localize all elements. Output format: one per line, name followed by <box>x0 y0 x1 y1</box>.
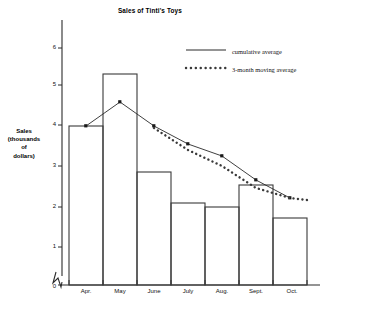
bar-aug <box>205 207 239 285</box>
y-tick-marks <box>58 48 62 285</box>
bar-may <box>103 74 137 285</box>
bar-july <box>171 203 205 285</box>
bar-apr <box>69 126 103 285</box>
axis-lines <box>62 20 320 285</box>
moving-average-line <box>154 128 307 200</box>
bar-oct <box>273 218 307 285</box>
bar-june <box>137 172 171 285</box>
x-tick-marks <box>69 280 307 285</box>
chart-figure: Sales of Tinti's Toys Sales (thousands o… <box>0 0 377 309</box>
chart-plot-area <box>0 0 377 309</box>
bar-series <box>69 74 307 285</box>
bar-sept <box>239 185 273 285</box>
